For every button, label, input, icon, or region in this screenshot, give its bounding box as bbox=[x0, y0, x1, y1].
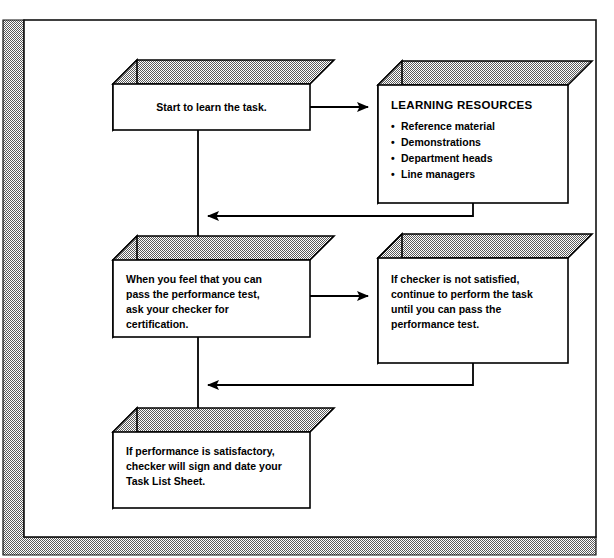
satisfactory-line-1: If performance is satisfactory, bbox=[126, 445, 275, 457]
request-certification-line-4: certification. bbox=[126, 318, 189, 330]
satisfactory-line-3: Task List Sheet. bbox=[126, 475, 205, 487]
learning-resources-box-top-face bbox=[378, 61, 592, 85]
learning-resources-heading: LEARNING RESOURCES bbox=[391, 99, 533, 111]
start-box-top-face bbox=[113, 60, 334, 84]
learning-resources-item-3: Department heads bbox=[401, 152, 493, 164]
request-certification-box[interactable]: When you feel that you can pass the perf… bbox=[113, 236, 334, 337]
flowchart-canvas: Start to learn the task. LEARNING RESOUR… bbox=[0, 0, 614, 558]
bullet-marker-4: • bbox=[391, 168, 395, 180]
learning-resources-box[interactable]: LEARNING RESOURCES • Reference material … bbox=[378, 61, 592, 203]
not-satisfied-box-top-face bbox=[378, 234, 592, 258]
satisfactory-box[interactable]: If performance is satisfactory, checker … bbox=[113, 408, 334, 508]
request-certification-box-top-face bbox=[113, 236, 334, 260]
learning-resources-item-4: Line managers bbox=[401, 168, 475, 180]
flowchart-page: Start to learn the task. LEARNING RESOUR… bbox=[0, 0, 614, 558]
satisfactory-box-top-face bbox=[113, 408, 334, 432]
learning-resources-item-2: Demonstrations bbox=[401, 136, 481, 148]
not-satisfied-box[interactable]: If checker is not satisfied, continue to… bbox=[378, 234, 592, 363]
request-certification-line-1: When you feel that you can bbox=[126, 273, 262, 285]
not-satisfied-line-1: If checker is not satisfied, bbox=[391, 273, 519, 285]
request-certification-line-2: pass the performance test, bbox=[126, 288, 260, 300]
start-box-line-1: Start to learn the task. bbox=[156, 101, 266, 113]
not-satisfied-line-4: performance test. bbox=[391, 318, 479, 330]
request-certification-line-3: ask your checker for bbox=[126, 303, 229, 315]
bullet-marker-1: • bbox=[391, 120, 395, 132]
bullet-marker-2: • bbox=[391, 136, 395, 148]
bullet-marker-3: • bbox=[391, 152, 395, 164]
not-satisfied-line-2: continue to perform the task bbox=[391, 288, 533, 300]
start-box[interactable]: Start to learn the task. bbox=[113, 60, 334, 130]
learning-resources-item-1: Reference material bbox=[401, 120, 495, 132]
satisfactory-line-2: checker will sign and date your bbox=[126, 460, 282, 472]
not-satisfied-line-3: until you can pass the bbox=[391, 303, 501, 315]
